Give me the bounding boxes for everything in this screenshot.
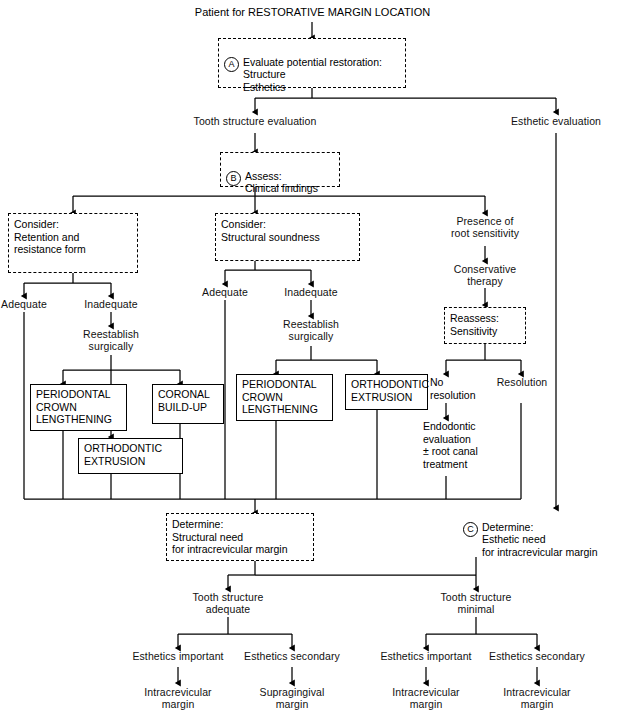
label-inadequate-left: Inadequate — [75, 298, 147, 310]
label-no-resolution: No resolution — [430, 376, 490, 401]
node-evaluate-potential-restoration: AEvaluate potential restoration: Structu… — [218, 38, 406, 88]
label-endodontic-evaluation: Endodontic evaluation ± root canal treat… — [423, 420, 497, 470]
label-outcome-intracrevicular-2: Intracrevicular margin — [379, 686, 473, 711]
label-outcome-intracrevicular-3: Intracrevicular margin — [490, 686, 584, 711]
node-determine-structural-need: Determine: Structural need for intracrev… — [166, 513, 314, 561]
box-periodontal-crown-lengthening-mid: PERIODONTAL CROWN LENGTHENING — [236, 374, 333, 421]
node-consider-structural: Consider: Structural soundness — [215, 213, 360, 261]
connector-lines — [0, 0, 625, 720]
label-presence-root-sensitivity: Presence of root sensitivity — [437, 215, 533, 240]
box-orthodontic-extrusion-left: ORTHODONTIC EXTRUSION — [78, 438, 183, 474]
label-outcome-intracrevicular-1: Intracrevicular margin — [131, 686, 225, 711]
node-determine-esthetic-need: CDetermine: Esthetic need for intracrevi… — [463, 508, 625, 558]
label-esthetic-evaluation: Esthetic evaluation — [491, 115, 621, 127]
flowchart-canvas: Patient for RESTORATIVE MARGIN LOCATION … — [0, 0, 625, 720]
label-esthetics-secondary-1: Esthetics secondary — [236, 650, 348, 662]
marker-c: C — [463, 522, 478, 537]
marker-a: A — [224, 57, 239, 72]
label-reestablish-surgically-left: Reestablish surgically — [75, 328, 147, 353]
label-tooth-structure-adequate: Tooth structure adequate — [178, 591, 278, 616]
label-tooth-structure-minimal: Tooth structure minimal — [426, 591, 526, 616]
box-coronal-build-up: CORONAL BUILD-UP — [152, 384, 224, 424]
marker-b: B — [226, 171, 241, 186]
label-adequate-left: Adequate — [0, 298, 54, 310]
box-orthodontic-extrusion-mid: ORTHODONTIC EXTRUSION — [345, 374, 428, 410]
label-adequate-mid: Adequate — [195, 286, 255, 298]
label-inadequate-mid: Inadequate — [275, 286, 347, 298]
label-conservative-therapy: Conservative therapy — [435, 263, 535, 288]
node-assess-clinical-findings: BAssess: Clinical findings — [220, 152, 340, 187]
node-assess-text: Assess: Clinical findings — [245, 170, 318, 195]
node-determine-esthetic-text: Determine: Esthetic need for intracrevic… — [482, 521, 598, 559]
label-esthetics-important-2: Esthetics important — [371, 650, 481, 662]
label-resolution: Resolution — [491, 376, 553, 388]
label-reestablish-surgically-mid: Reestablish surgically — [275, 318, 347, 343]
label-esthetics-secondary-2: Esthetics secondary — [481, 650, 593, 662]
label-esthetics-important-1: Esthetics important — [123, 650, 233, 662]
node-consider-retention: Consider: Retention and resistance form — [8, 213, 138, 273]
page-title: Patient for RESTORATIVE MARGIN LOCATION — [0, 6, 625, 18]
node-evaluate-text: Evaluate potential restoration: Structur… — [243, 56, 382, 94]
label-outcome-supragingival: Supragingival margin — [245, 686, 339, 711]
box-periodontal-crown-lengthening-left: PERIODONTAL CROWN LENGTHENING — [30, 384, 127, 431]
label-tooth-structure-evaluation: Tooth structure evaluation — [185, 115, 325, 127]
node-reassess-sensitivity: Reassess: Sensitivity — [444, 307, 526, 344]
